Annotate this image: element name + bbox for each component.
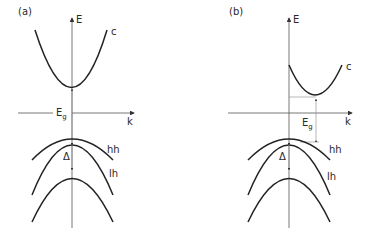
light-hole-label: lh: [109, 168, 118, 179]
light-hole-label: lh: [327, 171, 336, 182]
split-label: Δ: [279, 151, 286, 162]
k-axis-label: k: [127, 116, 133, 127]
light-hole-band: [32, 145, 113, 195]
energy-axis-label: E: [293, 14, 299, 25]
k-axis-label: k: [345, 116, 351, 127]
band-structure-diagram: (a) E k Eg c hh lh Δ (b) E k c Eg: [0, 0, 365, 232]
heavy-hole-label: hh: [107, 144, 120, 155]
split-off-band: [32, 179, 113, 223]
split-label: Δ: [63, 151, 70, 162]
conduction-band-label: c: [111, 26, 117, 37]
heavy-hole-band: [32, 139, 113, 160]
energy-axis-label: E: [76, 14, 82, 25]
conduction-band: [35, 30, 107, 88]
heavy-hole-label: hh: [329, 144, 342, 155]
conduction-band-label: c: [346, 61, 352, 72]
panel-b: (b) E k c Eg hh lh Δ: [228, 6, 352, 228]
conduction-band: [289, 65, 342, 95]
panel-label-a: (a): [18, 6, 32, 17]
panel-a: (a) E k Eg c hh lh Δ: [18, 6, 134, 228]
gap-label: Eg: [302, 117, 313, 131]
gap-label: Eg: [56, 107, 67, 121]
panel-label-b: (b): [229, 6, 243, 17]
